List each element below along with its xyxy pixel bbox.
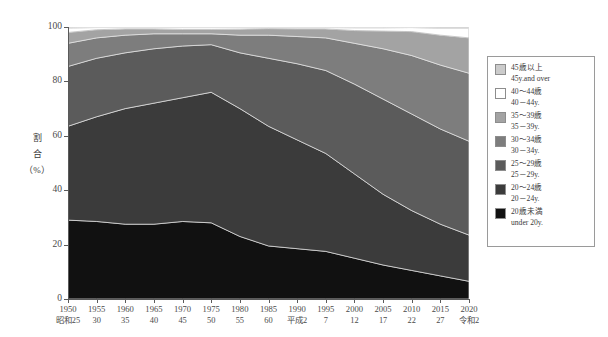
- x-tick-mark-1980: [240, 299, 241, 303]
- x-tick-mark-1985: [269, 299, 270, 303]
- x-tick-mark-1960: [125, 299, 126, 303]
- legend-label: 30～34歳30－34y.: [511, 135, 542, 156]
- x-tick-label-2020: 2020令和2: [446, 304, 492, 326]
- legend-label: 45歳以上45y.and over: [511, 63, 550, 84]
- x-tick-mark-1955: [97, 299, 98, 303]
- y-tick-label-80: 80: [32, 76, 62, 86]
- x-tick-mark-1975: [211, 299, 212, 303]
- legend-item-3[interactable]: 30～34歳30－34y.: [495, 135, 589, 156]
- legend-label-en: 35－39y.: [511, 122, 542, 133]
- x-tick-mark-1970: [183, 299, 184, 303]
- y-axis-label-line-3: （%）: [20, 162, 54, 178]
- legend-swatch-icon: [495, 208, 506, 219]
- legend-swatch-icon: [495, 112, 506, 123]
- y-axis-label-line-2: 合: [20, 146, 54, 162]
- legend-label-jp: 45歳以上: [511, 63, 550, 74]
- legend-label-en: 40－44y.: [511, 98, 542, 109]
- x-tick-year: 2020: [460, 304, 477, 314]
- legend-label-en: under 20y.: [511, 218, 543, 229]
- legend-label-jp: 35～39歳: [511, 111, 542, 122]
- legend-item-0[interactable]: 45歳以上45y.and over: [495, 63, 589, 84]
- legend-label: 25～29歳25－29y.: [511, 159, 542, 180]
- x-tick-mark-1995: [326, 299, 327, 303]
- y-tick-label-100: 100: [32, 22, 62, 32]
- x-tick-era: 令和2: [446, 315, 492, 326]
- x-tick-mark-2015: [440, 299, 441, 303]
- x-tick-mark-2020: [469, 299, 470, 303]
- legend-label: 20～24歳20－24y.: [511, 183, 542, 204]
- legend-label-en: 45y.and over: [511, 74, 550, 85]
- x-tick-mark-2000: [354, 299, 355, 303]
- legend-item-2[interactable]: 35～39歳35－39y.: [495, 111, 589, 132]
- y-tick-label-60: 60: [32, 131, 62, 141]
- y-tick-label-20: 20: [32, 240, 62, 250]
- plot-area: [68, 27, 469, 299]
- legend-label-en: 30－34y.: [511, 146, 542, 157]
- y-axis-line: [68, 27, 69, 299]
- legend-label-jp: 30～34歳: [511, 135, 542, 146]
- legend-label-jp: 20～24歳: [511, 183, 542, 194]
- legend-label: 35～39歳35－39y.: [511, 111, 542, 132]
- legend-label-jp: 20歳未満: [511, 207, 543, 218]
- legend-item-6[interactable]: 20歳未満under 20y.: [495, 207, 589, 228]
- legend-swatch-icon: [495, 136, 506, 147]
- x-tick-mark-1990: [297, 299, 298, 303]
- legend-label: 40～44歳40－44y.: [511, 87, 542, 108]
- x-tick-mark-1965: [154, 299, 155, 303]
- legend-label-en: 25－29y.: [511, 170, 542, 181]
- legend-swatch-icon: [495, 160, 506, 171]
- x-tick-mark-1950: [68, 299, 69, 303]
- legend-item-1[interactable]: 40～44歳40－44y.: [495, 87, 589, 108]
- legend-label-jp: 25～29歳: [511, 159, 542, 170]
- y-tick-label-40: 40: [32, 185, 62, 195]
- stacked-area-plot: [68, 27, 469, 299]
- legend-label-en: 20－24y.: [511, 194, 542, 205]
- x-tick-mark-2005: [383, 299, 384, 303]
- legend-swatch-icon: [495, 64, 506, 75]
- legend-label-jp: 40～44歳: [511, 87, 542, 98]
- legend-swatch-icon: [495, 184, 506, 195]
- legend-label: 20歳未満under 20y.: [511, 207, 543, 228]
- chart-root: 割 合 （%） 020406080100 1950昭和2519553019603…: [0, 0, 608, 337]
- legend-item-5[interactable]: 20～24歳20－24y.: [495, 183, 589, 204]
- legend: 45歳以上45y.and over40～44歳40－44y.35～39歳35－3…: [487, 56, 595, 247]
- legend-item-4[interactable]: 25～29歳25－29y.: [495, 159, 589, 180]
- x-tick-mark-2010: [412, 299, 413, 303]
- legend-swatch-icon: [495, 88, 506, 99]
- y-tick-label-0: 0: [32, 294, 62, 304]
